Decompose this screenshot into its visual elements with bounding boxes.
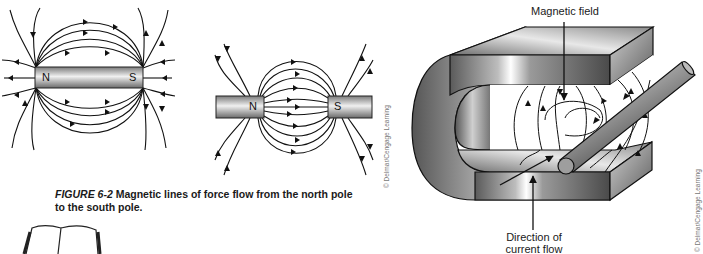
magnetic-field-label: Magnetic field bbox=[520, 5, 610, 17]
pair-north-label: N bbox=[249, 100, 257, 112]
figure-number: FIGURE 6-2 bbox=[55, 188, 113, 200]
horseshoe-bottom-front bbox=[475, 172, 610, 200]
book-icon bbox=[24, 226, 100, 254]
credit-right: © Delmar/Cengage Learning bbox=[694, 169, 701, 252]
figure-caption: FIGURE 6-2 Magnetic lines of force flow … bbox=[55, 188, 355, 214]
pair-south-label: S bbox=[334, 100, 341, 112]
current-flow-label: Direction of current flow bbox=[498, 231, 570, 254]
single-bar-magnet bbox=[35, 67, 143, 88]
diagram-canvas bbox=[0, 0, 703, 254]
credit-left: © Delmar/Cengage Learning bbox=[383, 105, 390, 188]
single-north-label: N bbox=[42, 71, 50, 83]
single-south-label: S bbox=[129, 71, 136, 83]
